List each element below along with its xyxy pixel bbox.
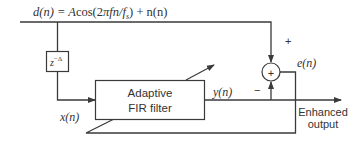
enhanced-output-label-line1: Enhanced [298, 106, 348, 118]
summing-junction: + [262, 63, 280, 81]
x-signal-line [58, 72, 96, 101]
input-equation: d(n) = Acos(2πfn/fs) + n(n) [33, 5, 167, 21]
minus-label: − [254, 84, 260, 96]
x-signal-label: x(n) [59, 110, 79, 124]
plus-label: + [285, 35, 291, 47]
delay-block: z−Δ [47, 52, 69, 72]
adaptation-arrow-icon [186, 65, 214, 80]
filter-label-line2: FIR filter [128, 102, 172, 114]
filter-label-line1: Adaptive [128, 87, 173, 99]
summer-symbol: + [268, 67, 274, 79]
e-signal-label: e(n) [297, 56, 316, 70]
diagram-canvas: d(n) = Acos(2πfn/fs) + n(n) z−Δ x(n) Ada… [0, 0, 364, 148]
y-signal-label: y(n) [212, 85, 232, 99]
block-diagram: d(n) = Acos(2πfn/fs) + n(n) z−Δ x(n) Ada… [0, 0, 364, 148]
adaptive-fir-filter-block: Adaptive FIR filter [96, 81, 205, 120]
enhanced-output-label-line2: output [308, 118, 339, 130]
